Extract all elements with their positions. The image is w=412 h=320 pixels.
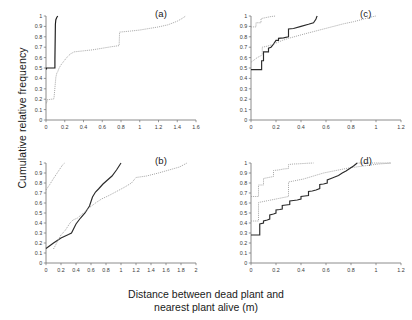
svg-text:1: 1 <box>120 267 123 273</box>
panel-d: (d) 00.10.20.30.40.50.60.70.80.9100.20.4… <box>225 155 411 283</box>
svg-text:0.7: 0.7 <box>35 44 43 50</box>
svg-text:0.1: 0.1 <box>240 107 248 113</box>
svg-text:0.7: 0.7 <box>240 190 248 196</box>
svg-text:0.4: 0.4 <box>72 267 80 273</box>
svg-text:0.4: 0.4 <box>240 220 248 226</box>
panel-c-label: (c) <box>360 8 372 19</box>
svg-text:0.3: 0.3 <box>240 230 248 236</box>
x-axis-label: Distance between dead plant and nearest … <box>60 288 352 313</box>
svg-text:1: 1 <box>39 13 42 19</box>
svg-text:0.5: 0.5 <box>35 65 43 71</box>
svg-text:0.2: 0.2 <box>272 267 280 273</box>
svg-text:0.6: 0.6 <box>240 55 248 61</box>
svg-text:0.8: 0.8 <box>117 124 125 130</box>
svg-text:0.1: 0.1 <box>35 107 43 113</box>
svg-text:0.1: 0.1 <box>240 250 248 256</box>
svg-text:0.9: 0.9 <box>35 170 43 176</box>
panel-a-label: (a) <box>155 8 167 19</box>
svg-text:1.2: 1.2 <box>397 124 405 130</box>
x-axis-label-line1: Distance between dead plant and <box>128 288 284 300</box>
panel-c: (c) 00.10.20.30.40.50.60.70.80.9100.20.4… <box>225 8 411 142</box>
x-axis-label-line2: nearest plant alive (m) <box>154 301 258 313</box>
svg-text:1.4: 1.4 <box>147 267 155 273</box>
svg-text:1.6: 1.6 <box>192 124 200 130</box>
panel-b-plot: 00.10.20.30.40.50.60.70.80.9100.20.40.60… <box>20 155 206 283</box>
svg-text:0.9: 0.9 <box>35 23 43 29</box>
svg-text:0.9: 0.9 <box>240 23 248 29</box>
svg-text:0.4: 0.4 <box>35 220 43 226</box>
svg-text:1.2: 1.2 <box>132 267 140 273</box>
svg-text:0: 0 <box>39 260 42 266</box>
svg-text:0.8: 0.8 <box>102 267 110 273</box>
svg-text:0.6: 0.6 <box>322 267 330 273</box>
svg-text:1.6: 1.6 <box>162 267 170 273</box>
svg-text:1: 1 <box>244 13 247 19</box>
svg-text:1: 1 <box>375 267 378 273</box>
figure-root: Cumulative relative frequency Distance b… <box>0 0 412 320</box>
svg-text:0.4: 0.4 <box>240 75 248 81</box>
svg-text:0: 0 <box>39 117 42 123</box>
svg-text:0.6: 0.6 <box>322 124 330 130</box>
svg-text:0.2: 0.2 <box>240 96 248 102</box>
panel-c-plot: 00.10.20.30.40.50.60.70.80.9100.20.40.60… <box>225 8 411 142</box>
svg-text:0.8: 0.8 <box>347 124 355 130</box>
svg-text:0.4: 0.4 <box>80 124 88 130</box>
svg-text:1.2: 1.2 <box>397 267 405 273</box>
svg-text:0.3: 0.3 <box>240 86 248 92</box>
panel-d-label: (d) <box>360 155 372 166</box>
svg-text:0.5: 0.5 <box>240 210 248 216</box>
svg-text:0.2: 0.2 <box>35 96 43 102</box>
svg-text:0.6: 0.6 <box>35 55 43 61</box>
svg-text:0.7: 0.7 <box>240 44 248 50</box>
svg-text:0.7: 0.7 <box>35 190 43 196</box>
svg-text:1.2: 1.2 <box>155 124 163 130</box>
svg-text:0.3: 0.3 <box>35 230 43 236</box>
svg-text:0.5: 0.5 <box>240 65 248 71</box>
svg-text:0.6: 0.6 <box>99 124 107 130</box>
svg-text:1: 1 <box>138 124 141 130</box>
svg-text:0.2: 0.2 <box>61 124 69 130</box>
svg-text:0: 0 <box>45 267 48 273</box>
svg-text:0.8: 0.8 <box>240 34 248 40</box>
svg-text:0.4: 0.4 <box>297 124 305 130</box>
svg-text:1: 1 <box>39 160 42 166</box>
svg-text:0.8: 0.8 <box>347 267 355 273</box>
svg-text:0.5: 0.5 <box>35 210 43 216</box>
panel-a-plot: 00.10.20.30.40.50.60.70.80.9100.20.40.60… <box>20 8 206 142</box>
svg-text:0.6: 0.6 <box>35 200 43 206</box>
svg-text:0.8: 0.8 <box>35 34 43 40</box>
svg-text:0.2: 0.2 <box>272 124 280 130</box>
svg-text:0.2: 0.2 <box>240 240 248 246</box>
svg-text:0.9: 0.9 <box>240 170 248 176</box>
svg-text:0: 0 <box>45 124 48 130</box>
panel-b-label: (b) <box>155 155 167 166</box>
svg-text:0.2: 0.2 <box>35 240 43 246</box>
panel-a: (a) 00.10.20.30.40.50.60.70.80.9100.20.4… <box>20 8 206 142</box>
panel-b: (b) 00.10.20.30.40.50.60.70.80.9100.20.4… <box>20 155 206 283</box>
svg-text:0.3: 0.3 <box>35 86 43 92</box>
svg-text:0: 0 <box>244 260 247 266</box>
panel-d-plot: 00.10.20.30.40.50.60.70.80.9100.20.40.60… <box>225 155 411 283</box>
svg-text:2: 2 <box>195 267 198 273</box>
svg-text:0.4: 0.4 <box>35 75 43 81</box>
svg-text:0.6: 0.6 <box>87 267 95 273</box>
svg-text:0.1: 0.1 <box>35 250 43 256</box>
svg-text:0: 0 <box>244 117 247 123</box>
svg-text:0: 0 <box>250 267 253 273</box>
svg-text:0.2: 0.2 <box>57 267 65 273</box>
svg-text:1.4: 1.4 <box>174 124 182 130</box>
svg-text:1: 1 <box>375 124 378 130</box>
svg-text:0.6: 0.6 <box>240 200 248 206</box>
svg-text:0: 0 <box>250 124 253 130</box>
svg-text:1.8: 1.8 <box>177 267 185 273</box>
svg-text:0.8: 0.8 <box>240 180 248 186</box>
svg-text:1: 1 <box>244 160 247 166</box>
svg-text:0.4: 0.4 <box>297 267 305 273</box>
svg-text:0.8: 0.8 <box>35 180 43 186</box>
